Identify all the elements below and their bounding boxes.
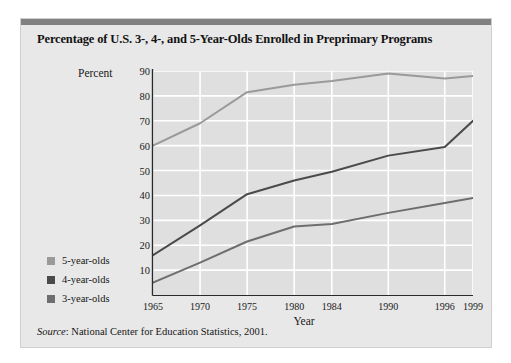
y-tick-80: 80: [110, 90, 150, 101]
y-axis-title: Percent: [78, 67, 112, 79]
line-chart-svg: [153, 71, 473, 295]
y-tick-50: 50: [110, 165, 150, 176]
legend-item-4-year-olds[interactable]: 4-year-olds: [47, 270, 110, 289]
legend-item-5-year-olds[interactable]: 5-year-olds: [47, 251, 110, 270]
source-note: Source: National Center for Education St…: [37, 326, 268, 337]
y-tick-20: 20: [110, 240, 150, 251]
x-tick-1975: 1975: [237, 301, 257, 312]
page-title: Percentage of U.S. 3-, 4-, and 5-Year-Ol…: [37, 32, 432, 47]
series-line-5-year-olds: [153, 73, 473, 145]
chart-legend: 5-year-olds4-year-olds3-year-olds: [47, 251, 110, 308]
x-tick-1999: 1999: [463, 301, 483, 312]
plot-canvas: [153, 71, 473, 295]
legend-swatch-icon: [47, 257, 55, 265]
series-line-4-year-olds: [153, 121, 473, 255]
y-tick-60: 60: [110, 140, 150, 151]
plot-area: 102030405060708090 196519701975198019841…: [133, 63, 475, 299]
x-tick-1965: 1965: [143, 301, 163, 312]
source-text: : National Center for Education Statisti…: [66, 326, 268, 337]
legend-swatch-icon: [47, 295, 55, 303]
screenshot-root: Percentage of U.S. 3-, 4-, and 5-Year-Ol…: [0, 0, 511, 363]
x-tick-1996: 1996: [435, 301, 455, 312]
x-tick-1970: 1970: [190, 301, 210, 312]
y-tick-70: 70: [110, 115, 150, 126]
chart-card: Percentage of U.S. 3-, 4-, and 5-Year-Ol…: [20, 18, 492, 348]
legend-label: 5-year-olds: [62, 255, 110, 266]
y-tick-10: 10: [110, 265, 150, 276]
legend-swatch-icon: [47, 276, 55, 284]
source-label: Source: [37, 326, 66, 337]
legend-label: 3-year-olds: [62, 293, 110, 304]
y-tick-40: 40: [110, 190, 150, 201]
series-lines: [153, 73, 473, 282]
y-tick-90: 90: [110, 66, 150, 77]
x-tick-1990: 1990: [378, 301, 398, 312]
legend-item-3-year-olds[interactable]: 3-year-olds: [47, 289, 110, 308]
y-tick-30: 30: [110, 215, 150, 226]
x-tick-1980: 1980: [284, 301, 304, 312]
x-tick-1984: 1984: [322, 301, 342, 312]
legend-label: 4-year-olds: [62, 274, 110, 285]
card-top-bar: [21, 19, 491, 25]
